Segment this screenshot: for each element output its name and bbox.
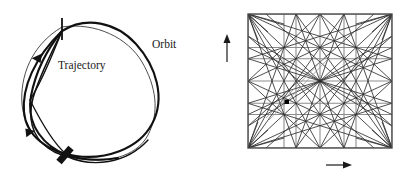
tune-resonance-panel: 60 59 64 65 Qy Qx: [206, 0, 412, 187]
trajectory-curve-main: [24, 23, 159, 157]
bottom-bar-marker: [59, 148, 71, 162]
closed-orbit-curve: [22, 26, 155, 160]
working-point-marker: [285, 100, 290, 105]
orbit-trajectory-panel: Trajectory Orbit: [0, 0, 206, 187]
trajectory-curve-second-pass: [30, 31, 118, 160]
qy-axis-arrow-icon: [224, 34, 231, 62]
resonance-line-group: [248, 14, 392, 148]
trajectory-label: Trajectory: [58, 60, 105, 72]
orbit-label: Orbit: [152, 39, 176, 51]
qx-axis-arrow-icon: [326, 162, 352, 169]
orbit-trajectory-svg: [0, 0, 206, 187]
two-panel-figure: Trajectory Orbit: [0, 0, 412, 187]
tune-resonance-svg: [206, 0, 412, 187]
trajectory-curve-third-pass: [31, 31, 76, 157]
